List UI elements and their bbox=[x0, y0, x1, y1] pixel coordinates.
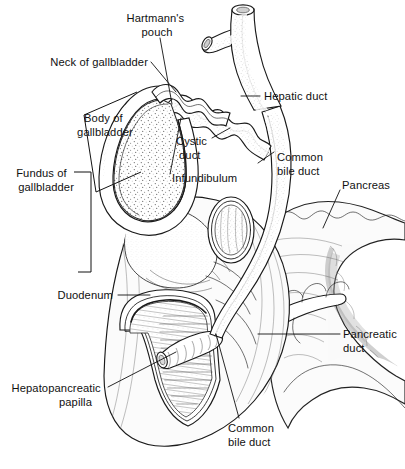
anatomy-figure: Hartmann's pouch Neck of gallbladder Hep… bbox=[0, 0, 405, 469]
label-hartmanns-pouch: Hartmann's pouch bbox=[126, 12, 187, 38]
hepatic-duct-lumen bbox=[237, 7, 250, 13]
label-pancreas: Pancreas bbox=[342, 179, 390, 191]
label-hepatopancreatic-papilla: Hepatopancreatic papilla bbox=[11, 382, 104, 408]
label-common-bile-duct-lower: Common bile duct bbox=[228, 422, 277, 448]
label-duodenum: Duodenum bbox=[57, 289, 113, 301]
label-fundus-of-gallbladder: Fundus of gallbladder bbox=[16, 167, 74, 193]
anatomy-illustration: Hartmann's pouch Neck of gallbladder Hep… bbox=[0, 0, 405, 469]
label-hepatic-duct: Hepatic duct bbox=[264, 90, 328, 102]
label-infundibulum: Infundibulum bbox=[172, 172, 237, 184]
label-neck-of-gallbladder: Neck of gallbladder bbox=[50, 56, 148, 68]
duct-cross-section-oval bbox=[208, 197, 254, 263]
bracket-fundus-of-gallbladder bbox=[74, 172, 91, 272]
